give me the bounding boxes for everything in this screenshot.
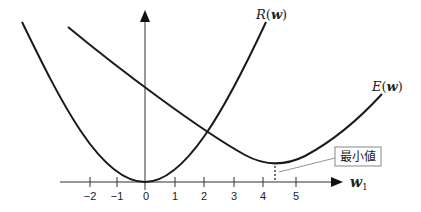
curve-e-label: E(w) <box>371 79 403 94</box>
curve-r <box>22 22 266 182</box>
y-axis-arrow-icon <box>140 10 150 22</box>
minimum-leader-line <box>279 158 335 172</box>
x-tick-labels: −2 −1 0 1 2 3 4 5 <box>84 190 299 202</box>
tick-label: −2 <box>84 190 97 202</box>
x-axis-arrow-icon <box>331 177 343 187</box>
minimum-label: 最小値 <box>340 149 376 164</box>
tick-label: 3 <box>231 190 237 202</box>
tick-label: −1 <box>111 190 124 202</box>
tick-label: 4 <box>260 190 266 202</box>
curve-e <box>68 27 382 163</box>
axes <box>60 10 343 190</box>
tick-label: 5 <box>293 190 299 202</box>
x-axis-label: w1 <box>350 174 368 192</box>
tick-label: 1 <box>172 190 178 202</box>
regularization-diagram: −2 −1 0 1 2 3 4 5 w1 R(w) E(w) 最小値 <box>0 0 421 212</box>
tick-label: 0 <box>143 190 149 202</box>
curve-r-label: R(w) <box>255 7 287 22</box>
tick-label: 2 <box>201 190 207 202</box>
